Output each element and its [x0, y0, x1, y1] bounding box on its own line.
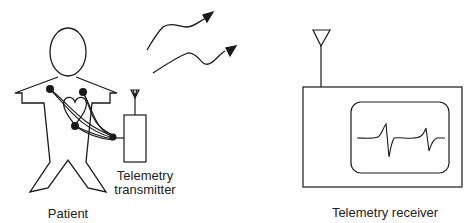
patient-figure: [15, 28, 117, 192]
arrow-head-icon: [226, 46, 236, 56]
transmitter-label-line1: Telemetry: [110, 168, 180, 183]
telemetry-diagram: [0, 0, 469, 223]
telemetry-transmitter: [113, 90, 146, 162]
receiver-label: Telemetry receiver: [320, 205, 450, 220]
telemetry-receiver: [303, 30, 462, 187]
ecg-waveform: [357, 124, 445, 157]
transmitter-box: [124, 115, 146, 162]
electrode-3: [71, 122, 79, 130]
receiver-antenna-icon: [313, 30, 330, 46]
arrow-head-icon: [203, 12, 213, 22]
signal-wave-lower: [153, 51, 225, 73]
electrode-1: [46, 85, 54, 93]
wireless-signal: [147, 12, 236, 73]
patient-head: [50, 28, 86, 76]
patient-label: Patient: [38, 206, 98, 221]
electrode-2: [79, 88, 87, 96]
signal-wave-upper: [147, 17, 208, 50]
transmitter-antenna-icon: [131, 90, 139, 98]
heart-icon: [64, 97, 87, 125]
patient-body: [15, 77, 117, 192]
lead-connector: [110, 134, 117, 141]
transmitter-label-line2: transmitter: [108, 182, 182, 197]
electrode-leads: [50, 89, 113, 140]
